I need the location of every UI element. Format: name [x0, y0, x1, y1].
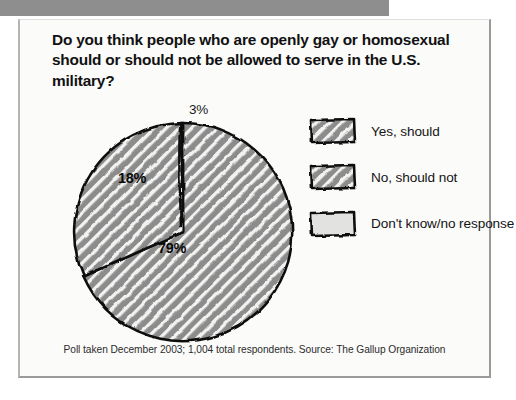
pie-label-dontknow: 3% [189, 102, 208, 117]
legend-label-yes: Yes, should [371, 124, 440, 139]
page-title: Do you think people who are openly gay o… [52, 30, 482, 91]
pie-label-yes: 79% [158, 240, 186, 256]
legend-item-yes: Yes, should [308, 114, 508, 148]
top-banner-strip [0, 0, 389, 16]
source-note: Poll taken December 2003; 1,004 total re… [20, 344, 489, 355]
pie-chart: 3% 18% 79% [54, 98, 319, 353]
infographic-panel: Do you think people who are openly gay o… [18, 19, 491, 378]
pie-label-no: 18% [118, 170, 146, 186]
legend-item-dontknow: Don't know/no response [308, 206, 508, 240]
legend-swatch-no-icon [308, 162, 358, 192]
legend-item-no: No, should not [308, 160, 508, 194]
legend-label-no: No, should not [371, 170, 457, 185]
legend-label-dontknow: Don't know/no response [371, 216, 514, 231]
legend-swatch-yes-icon [308, 116, 358, 146]
legend-swatch-dontknow-icon [308, 208, 358, 238]
legend: Yes, should No, should not Don't know/no… [308, 114, 508, 252]
pie-chart-svg [54, 98, 319, 353]
